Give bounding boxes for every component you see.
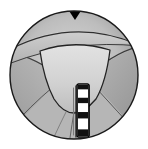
probe-band-4 [78, 112, 88, 119]
probe-band-0 [78, 85, 88, 90]
probe-band-3 [78, 103, 88, 112]
probe-band-2 [78, 98, 88, 104]
probe-bands [78, 85, 88, 136]
banded-probe[interactable] [74, 84, 90, 137]
endoscopic-illustration [0, 0, 148, 149]
figure-container: Endoscopic circular field of view endosc… [0, 0, 148, 149]
probe-band-1 [78, 90, 88, 98]
probe-band-5 [78, 119, 88, 130]
probe-band-6 [78, 129, 88, 136]
